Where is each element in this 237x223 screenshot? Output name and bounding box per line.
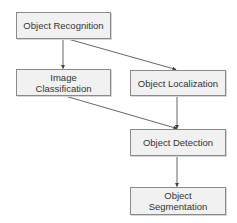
- edge-recognition-to-localization: [68, 39, 176, 70]
- node-object-segmentation: Object Segmentation: [130, 187, 226, 215]
- node-label-line-1: Image: [50, 72, 76, 83]
- node-label-line-1: Object: [164, 190, 191, 201]
- node-object-detection: Object Detection: [130, 129, 226, 156]
- node-object-localization: Object Localization: [130, 70, 226, 96]
- node-label: Object Localization: [138, 78, 218, 89]
- edge-classification-to-detection: [65, 96, 177, 129]
- node-label: Object Detection: [143, 137, 213, 148]
- node-object-recognition: Object Recognition: [16, 12, 111, 39]
- node-label-line-2: Segmentation: [149, 201, 208, 212]
- node-label-line-2: Classification: [36, 83, 92, 94]
- node-image-classification: Image Classification: [16, 69, 111, 96]
- node-label: Object Recognition: [23, 20, 103, 31]
